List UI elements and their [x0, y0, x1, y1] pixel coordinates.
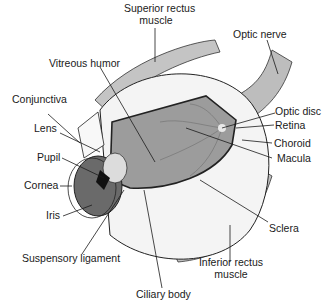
label-choroid: Choroid — [274, 137, 311, 149]
label-suspensory-ligament: Suspensory ligament — [22, 252, 120, 264]
label-optic-nerve: Optic nerve — [233, 28, 287, 40]
label-line: muscle — [196, 268, 266, 280]
conjunctiva — [78, 112, 104, 158]
label-conjunctiva: Conjunctiva — [12, 93, 67, 105]
label-sclera: Sclera — [269, 222, 299, 234]
label-superior-rectus-muscle: Superior rectus muscle — [124, 2, 188, 26]
label-inferior-rectus-muscle: Inferior rectus muscle — [196, 256, 266, 280]
label-pupil: Pupil — [37, 151, 60, 163]
label-vitreous-humor: Vitreous humor — [49, 57, 120, 69]
label-line: Inferior rectus — [196, 256, 266, 268]
label-retina: Retina — [275, 119, 305, 131]
label-macula: Macula — [277, 152, 311, 164]
label-line: muscle — [124, 14, 188, 26]
label-line: Superior rectus — [124, 2, 188, 14]
label-cornea: Cornea — [24, 179, 58, 191]
label-lens: Lens — [34, 122, 57, 134]
label-optic-disc: Optic disc — [275, 105, 321, 117]
label-ciliary-body: Ciliary body — [136, 288, 191, 300]
label-iris: Iris — [46, 209, 60, 221]
